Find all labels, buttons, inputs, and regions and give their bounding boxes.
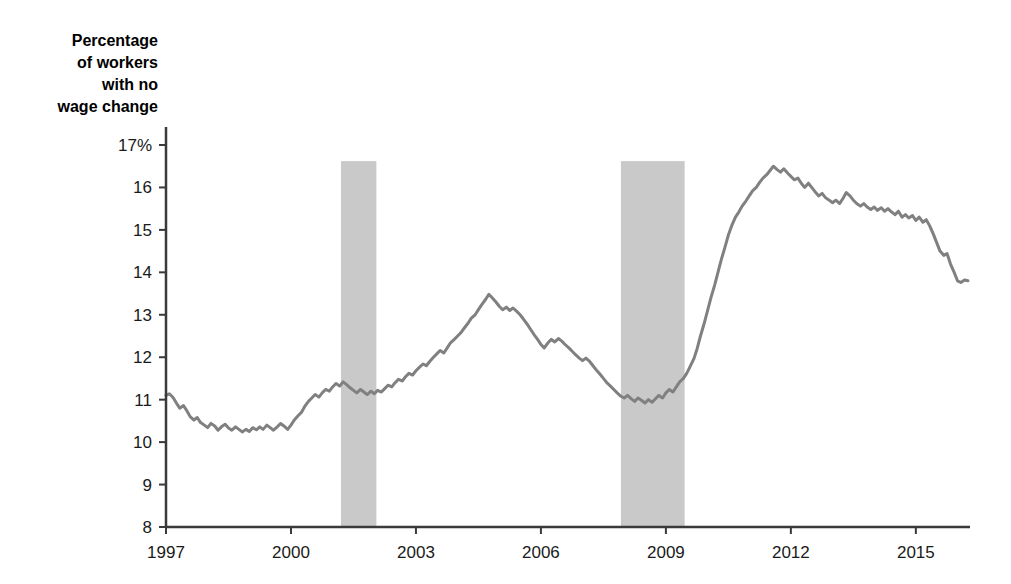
shaded-band-recession-2008 — [621, 161, 685, 527]
x-tick-labels-group: 1997200020032006200920122015 — [147, 543, 935, 562]
y-tick-label: 9 — [143, 476, 152, 495]
y-tick-label: 16 — [133, 178, 152, 197]
y-tick-label: 8 — [143, 518, 152, 537]
y-tick-label: 14 — [133, 263, 152, 282]
x-tick-label: 2000 — [272, 543, 310, 562]
x-tick-label: 2015 — [897, 543, 935, 562]
recession-bands-group — [341, 161, 685, 527]
y-tick-label: 15 — [133, 221, 152, 240]
y-tick-label: 12 — [133, 348, 152, 367]
series-line-no-wage-change — [166, 166, 968, 432]
line-chart-plot: 891011121314151617% 19972000200320062009… — [0, 0, 1011, 584]
y-tick-label: 11 — [134, 391, 152, 410]
y-tick-label: 13 — [133, 306, 152, 325]
y-tick-label: 10 — [133, 433, 152, 452]
x-tick-label: 2006 — [522, 543, 560, 562]
x-tick-label: 2003 — [397, 543, 435, 562]
x-tick-label: 2009 — [647, 543, 685, 562]
y-tick-label: 17% — [118, 136, 152, 155]
x-tick-label: 1997 — [147, 543, 185, 562]
y-tick-labels-group: 891011121314151617% — [118, 136, 152, 537]
shaded-band-recession-2001 — [341, 161, 376, 527]
x-tick-label: 2012 — [772, 543, 810, 562]
chart-figure: Percentage of workers with no wage chang… — [0, 0, 1011, 584]
